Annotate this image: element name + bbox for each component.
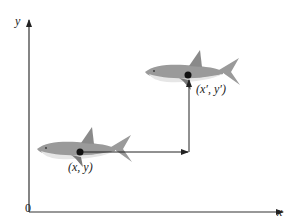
origin-label: 0 bbox=[25, 201, 31, 216]
x-axis-label: x bbox=[277, 205, 282, 220]
end-point-label: (x′, y′) bbox=[196, 82, 226, 97]
end-point-dot bbox=[185, 72, 192, 79]
start-point-dot bbox=[77, 149, 84, 156]
start-point-label: (x, y) bbox=[68, 160, 93, 175]
y-axis-label: y bbox=[15, 14, 20, 29]
translation-diagram bbox=[0, 0, 298, 223]
